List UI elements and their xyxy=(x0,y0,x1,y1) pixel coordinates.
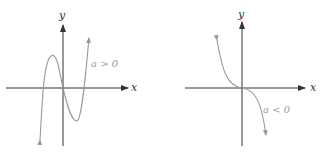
left-graph xyxy=(6,25,128,146)
left-x-label: x xyxy=(131,82,137,93)
right-y-label: y xyxy=(238,9,244,20)
graphs-canvas xyxy=(0,0,324,159)
right-graph xyxy=(146,22,305,146)
right-condition-label: a < 0 xyxy=(263,105,290,115)
left-condition-label: a > 0 xyxy=(91,59,118,69)
right-x-label: x xyxy=(310,82,316,93)
left-y-label: y xyxy=(59,10,65,21)
left-cubic-curve xyxy=(40,38,89,140)
